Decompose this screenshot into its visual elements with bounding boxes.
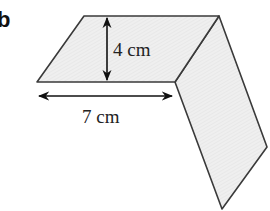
height-label: 4 cm [113,39,151,60]
width-label: 7 cm [82,106,120,127]
diagram-canvas: b 4 cm 7 cm [0,0,270,211]
folded-parallelogram-figure: 4 cm 7 cm [0,0,270,211]
